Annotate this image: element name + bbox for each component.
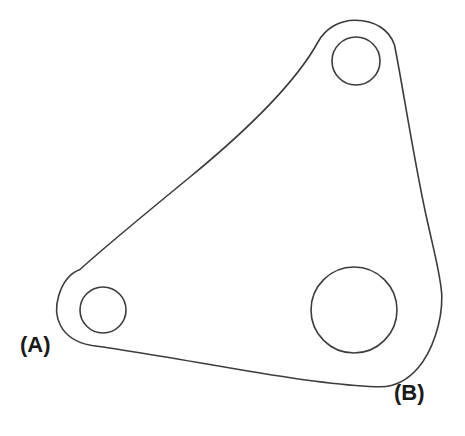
left-small-hole — [80, 287, 126, 333]
label-a: (A) — [20, 334, 51, 356]
bottom-right-large-hole — [311, 267, 397, 353]
top-small-hole — [332, 37, 380, 85]
label-b: (B) — [394, 382, 425, 404]
bracket-drawing — [0, 0, 465, 436]
drawing-canvas: (A) (B) — [0, 0, 465, 436]
